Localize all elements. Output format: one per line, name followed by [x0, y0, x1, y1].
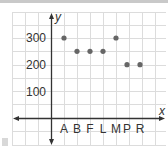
y-tick-100: 100 — [26, 85, 46, 99]
y-axis-label: y — [54, 10, 62, 24]
corner-marker — [2, 138, 8, 146]
data-point-M — [113, 35, 118, 40]
x-axis-label: x — [158, 104, 166, 118]
x-tick-B: B — [73, 122, 81, 136]
data-point-A — [61, 35, 66, 40]
y-tick-300: 300 — [26, 31, 46, 45]
x-tick-R: R — [136, 122, 145, 136]
data-point-R — [137, 62, 142, 67]
x-tick-P: P — [123, 122, 131, 136]
x-tick-A: A — [60, 122, 68, 136]
data-point-L — [100, 49, 105, 54]
x-tick-M: M — [111, 122, 121, 136]
data-point-P — [124, 62, 129, 67]
scatter-chart: y x 300 200 100 A B F L M P R — [0, 0, 168, 153]
x-tick-F: F — [86, 122, 93, 136]
data-point-F — [87, 49, 92, 54]
x-tick-L: L — [100, 122, 107, 136]
data-point-B — [74, 49, 79, 54]
y-tick-200: 200 — [26, 58, 46, 72]
